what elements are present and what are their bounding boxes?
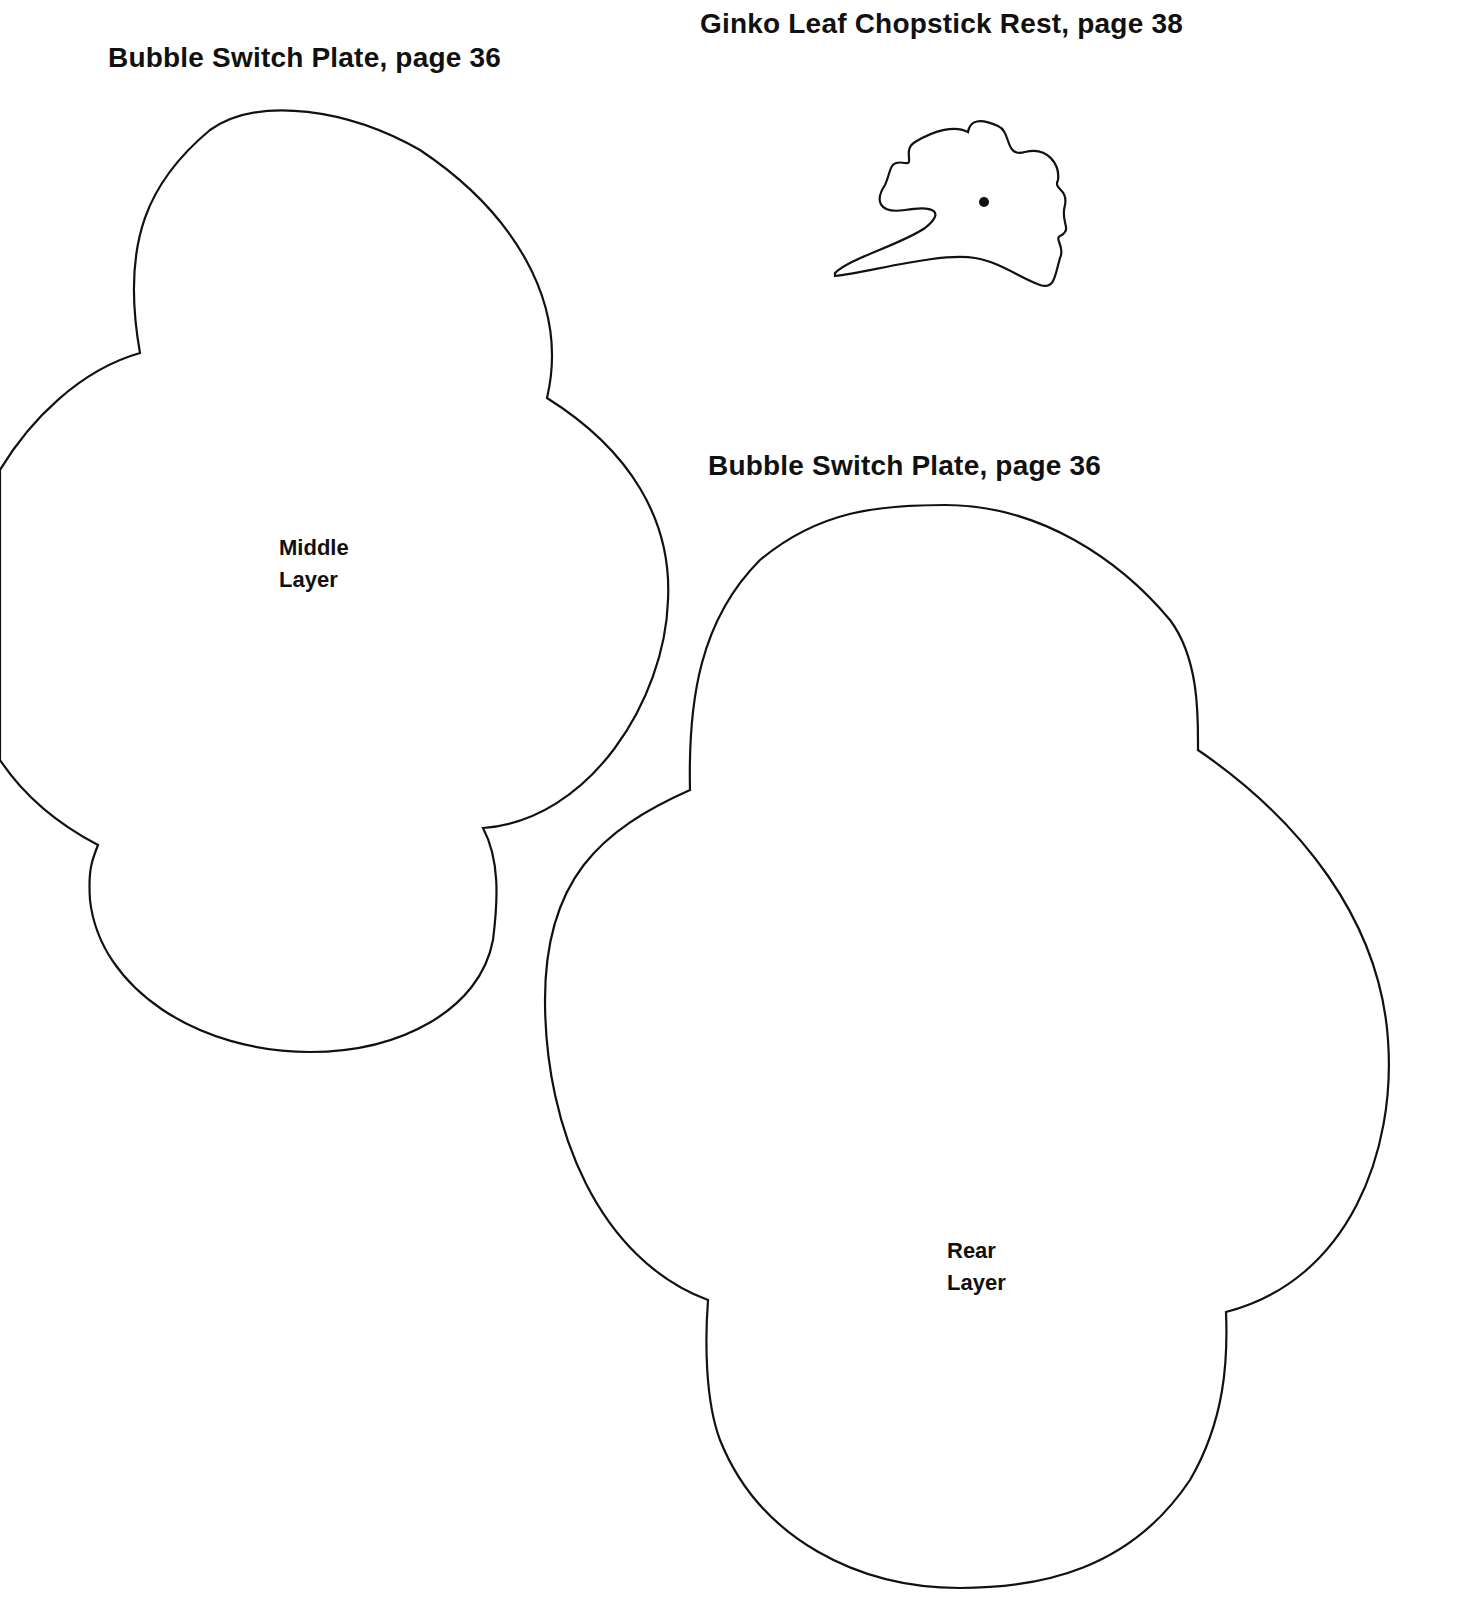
middle-layer-label-line-2: Layer — [279, 564, 349, 596]
rear-layer-outline — [545, 505, 1389, 1588]
rear-layer-label: Rear Layer — [947, 1235, 1006, 1299]
middle-layer-label-line-1: Middle — [279, 532, 349, 564]
template-outlines — [0, 0, 1478, 1597]
ginko-hole-marker — [979, 197, 989, 207]
rear-layer-label-line-1: Rear — [947, 1235, 1006, 1267]
rear-layer-label-line-2: Layer — [947, 1267, 1006, 1299]
ginko-leaf-outline — [835, 121, 1066, 286]
middle-layer-label: Middle Layer — [279, 532, 349, 596]
